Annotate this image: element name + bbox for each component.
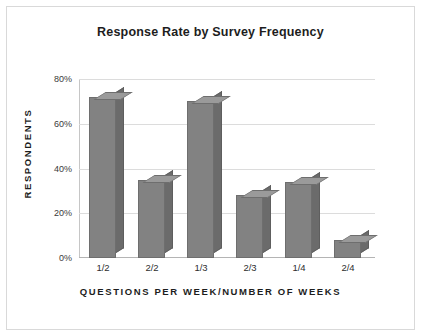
bar-column-1[interactable]: [89, 79, 125, 258]
bar-5[interactable]: [285, 182, 312, 258]
bar-column-2[interactable]: [138, 79, 174, 258]
bar-4-front-face: [236, 195, 263, 258]
chart-title: Response Rate by Survey Frequency: [0, 25, 421, 39]
y-tick-label-0: 0%: [30, 253, 72, 263]
y-tick-label-60: 60%: [30, 119, 72, 129]
x-tick-label-5: 1/4: [277, 262, 321, 273]
bar-column-6[interactable]: [334, 79, 370, 258]
bar-column-3[interactable]: [187, 79, 223, 258]
bar-5-front-face: [285, 182, 312, 258]
bar-6[interactable]: [334, 240, 361, 258]
bar-3[interactable]: [187, 101, 214, 258]
x-tick-label-1: 1/2: [81, 262, 125, 273]
bar-4[interactable]: [236, 195, 263, 258]
y-tick-label-80: 80%: [30, 74, 72, 84]
bar-3-side-face: [214, 91, 222, 253]
bar-1-front-face: [89, 97, 116, 258]
bar-column-5[interactable]: [285, 79, 321, 258]
bar-1[interactable]: [89, 97, 116, 258]
chart-card: Response Rate by Survey Frequency RESPON…: [0, 0, 421, 336]
bar-2-front-face: [138, 180, 165, 258]
bar-column-4[interactable]: [236, 79, 272, 258]
x-tick-label-2: 2/2: [130, 262, 174, 273]
plot-area: [79, 79, 375, 258]
x-axis-title: QUESTIONS PER WEEK/NUMBER OF WEEKS: [0, 286, 421, 297]
bar-1-side-face: [116, 87, 124, 253]
x-tick-label-3: 1/3: [179, 262, 223, 273]
x-axis-tick-labels: 1/2 2/2 1/3 2/3 1/4 2/4: [79, 262, 375, 278]
y-tick-label-20: 20%: [30, 208, 72, 218]
bar-2[interactable]: [138, 180, 165, 258]
y-tick-label-40: 40%: [30, 164, 72, 174]
bar-3-front-face: [187, 101, 214, 258]
x-tick-label-4: 2/3: [228, 262, 272, 273]
x-tick-label-6: 2/4: [326, 262, 370, 273]
